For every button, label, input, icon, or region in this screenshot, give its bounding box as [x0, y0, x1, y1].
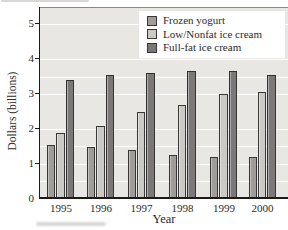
- x-tick-label: 1997: [122, 203, 162, 214]
- bar: [96, 126, 104, 200]
- y-tick-label: 1: [10, 158, 34, 169]
- bar: [258, 92, 266, 199]
- bar-group-1998: [169, 71, 196, 199]
- legend-label: Low/Nonfat ice cream: [163, 29, 262, 40]
- bar: [56, 133, 64, 200]
- ice-cream-sales-bar-chart: Dollars (billions) Year 012345 199519961…: [0, 0, 288, 230]
- x-tick-label: 1995: [41, 203, 81, 214]
- y-tick-mark: [35, 128, 39, 129]
- legend-swatch-icon: [147, 16, 157, 26]
- bar: [137, 112, 145, 200]
- legend-swatch-icon: [147, 29, 157, 39]
- y-tick-mark: [35, 163, 39, 164]
- bar: [229, 71, 237, 199]
- bar: [178, 105, 186, 200]
- y-tick-label: 0: [10, 193, 34, 204]
- y-axis-line: [39, 7, 40, 199]
- legend-swatch-icon: [147, 43, 157, 53]
- bar-group-1995: [47, 80, 74, 199]
- x-tick-label: 1999: [204, 203, 244, 214]
- bar: [219, 94, 227, 199]
- bar: [267, 75, 275, 199]
- bar-group-2000: [249, 75, 276, 199]
- legend-label: Full-fat ice cream: [163, 42, 241, 53]
- x-tick-label: 2000: [243, 203, 283, 214]
- bar-group-1997: [128, 73, 155, 199]
- legend-item: Low/Nonfat ice cream: [147, 28, 285, 42]
- bar-group-1996: [87, 75, 114, 199]
- bar: [66, 80, 74, 199]
- bar: [249, 157, 257, 199]
- x-axis-title: Year: [134, 212, 194, 227]
- cropped-print-artifact-bottom: [36, 222, 106, 226]
- bar: [47, 145, 55, 199]
- bar: [106, 75, 114, 199]
- y-tick-mark: [35, 58, 39, 59]
- legend-label: Frozen yogurt: [163, 15, 225, 26]
- legend-item: Frozen yogurt: [147, 14, 285, 28]
- bar: [128, 150, 136, 199]
- cropped-print-artifact-top: [1, 0, 89, 2]
- y-tick-mark: [35, 93, 39, 94]
- y-tick-mark: [35, 23, 39, 24]
- y-tick-label: 4: [10, 53, 34, 64]
- bar: [187, 71, 195, 199]
- y-tick-label: 2: [10, 123, 34, 134]
- x-axis-line: [39, 197, 288, 199]
- legend: Frozen yogurtLow/Nonfat ice creamFull-fa…: [139, 11, 285, 58]
- bar: [87, 147, 95, 200]
- bar: [210, 157, 218, 199]
- bar: [169, 155, 177, 199]
- x-tick-label: 1998: [163, 203, 203, 214]
- legend-item: Full-fat ice cream: [147, 41, 285, 55]
- y-tick-label: 3: [10, 88, 34, 99]
- bar-group-1999: [210, 71, 237, 199]
- x-tick-label: 1996: [81, 203, 121, 214]
- bar: [146, 73, 154, 199]
- y-tick-label: 5: [10, 18, 34, 29]
